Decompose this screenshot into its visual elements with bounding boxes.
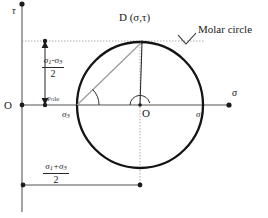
radius-numerator: σ1-σ3 bbox=[42, 56, 64, 68]
point-d-label: D (σ,τ) bbox=[119, 12, 150, 23]
center-offset-denominator: 2 bbox=[30, 174, 82, 185]
molar-circle-leader-line bbox=[178, 33, 196, 44]
tau-axis-label: τ bbox=[12, 6, 16, 16]
point-d-dot bbox=[140, 40, 143, 43]
radius-num-term-b-sub: 3 bbox=[59, 58, 62, 65]
radius-dimension-label: σ1-σ3 2 bbox=[30, 50, 76, 79]
radius-denominator: 2 bbox=[30, 68, 76, 79]
radius-dimension-tick-top bbox=[43, 39, 47, 43]
origin-label: O bbox=[4, 100, 12, 111]
pole-angle-arc bbox=[93, 90, 99, 106]
sigma3-subscript: 3 bbox=[66, 112, 69, 119]
sigma-axis-label: σ bbox=[232, 88, 237, 98]
pole-label: Pole bbox=[47, 96, 59, 103]
center-offset-numerator: σ1+σ3 bbox=[43, 162, 68, 174]
figure-canvas: τ σ O O σ3 σ1 Pole D (σ,τ) Molar circle … bbox=[0, 0, 268, 218]
radius-dimension-tick-bottom bbox=[43, 103, 47, 107]
sigma1-intercept-label: σ1 bbox=[196, 110, 204, 120]
circle-center-label: O bbox=[142, 108, 150, 119]
center-offset-tick-left bbox=[21, 183, 26, 188]
sigma1-subscript: 1 bbox=[200, 112, 203, 119]
origin-marker-dot bbox=[20, 103, 25, 108]
center-offset-tick-right bbox=[138, 183, 143, 188]
center-offset-dimension-label: σ1+σ3 2 bbox=[30, 156, 82, 185]
center-offset-num-term-b-sub: 3 bbox=[63, 164, 66, 171]
sigma-axis-arrow-dot bbox=[226, 102, 231, 107]
molar-circle-caption: Molar circle bbox=[198, 24, 252, 35]
sigma3-intercept-label: σ3 bbox=[62, 110, 70, 120]
tau-axis-arrow-dot bbox=[19, 1, 24, 6]
